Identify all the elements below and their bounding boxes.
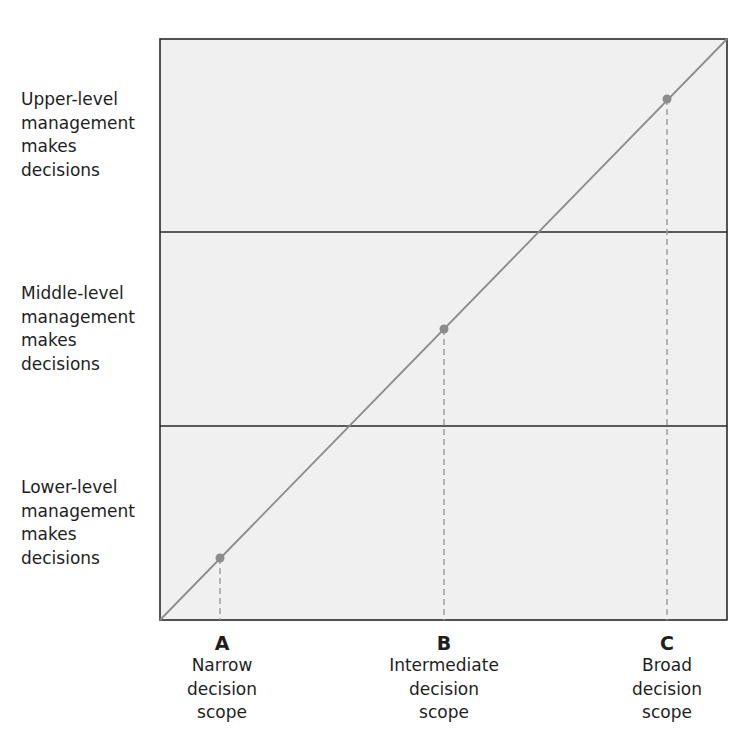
- column-label-line: decision: [142, 678, 302, 702]
- column-label-line: scope: [587, 701, 747, 725]
- point-c: [663, 95, 672, 104]
- column-label-line: Broad: [587, 654, 747, 678]
- row-label-line: decisions: [21, 159, 156, 183]
- column-letter: A: [142, 632, 302, 654]
- column-label-line: Intermediate: [364, 654, 524, 678]
- column-label-a: A Narrow decision scope: [142, 632, 302, 725]
- row-label-line: makes: [21, 329, 156, 353]
- row-label-middle: Middle-level management makes decisions: [21, 282, 156, 376]
- row-label-line: management: [21, 112, 156, 136]
- column-label-line: scope: [364, 701, 524, 725]
- point-a: [216, 554, 225, 563]
- row-label-line: decisions: [21, 547, 156, 571]
- row-label-line: management: [21, 306, 156, 330]
- row-label-line: Lower-level: [21, 476, 156, 500]
- column-label-line: scope: [142, 701, 302, 725]
- row-label-upper: Upper-level management makes decisions: [21, 88, 156, 182]
- column-label-line: decision: [587, 678, 747, 702]
- column-label-line: Narrow: [142, 654, 302, 678]
- column-label-line: decision: [364, 678, 524, 702]
- row-label-line: makes: [21, 523, 156, 547]
- row-label-line: Upper-level: [21, 88, 156, 112]
- row-label-lower: Lower-level management makes decisions: [21, 476, 156, 570]
- row-label-line: management: [21, 500, 156, 524]
- column-label-b: B Intermediate decision scope: [364, 632, 524, 725]
- row-label-line: makes: [21, 135, 156, 159]
- point-b: [440, 325, 449, 334]
- row-label-line: decisions: [21, 353, 156, 377]
- column-letter: B: [364, 632, 524, 654]
- column-letter: C: [587, 632, 747, 654]
- row-label-line: Middle-level: [21, 282, 156, 306]
- column-label-c: C Broad decision scope: [587, 632, 747, 725]
